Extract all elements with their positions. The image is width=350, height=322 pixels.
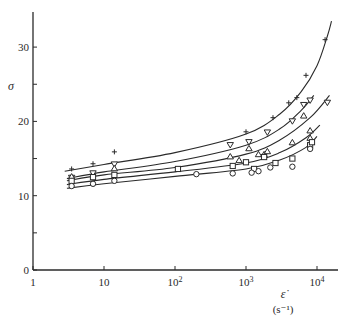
y-tick-label: 10 (18, 190, 30, 202)
marker-circle (249, 170, 254, 175)
marker-down-triangle (324, 100, 330, 105)
marker-square (243, 160, 248, 165)
marker-plus (91, 161, 96, 166)
x-axis-label: ε̇ (281, 287, 290, 301)
marker-circle (268, 165, 273, 170)
y-axis: 0102030 σ (8, 12, 37, 276)
marker-up-triangle (264, 148, 270, 153)
y-tick-label: 30 (18, 41, 30, 53)
marker-plus (270, 115, 275, 120)
curve-circle (67, 136, 317, 188)
x-axis-unit: (s⁻¹) (273, 303, 294, 316)
marker-circle (230, 171, 235, 176)
marker-up-triangle (301, 113, 307, 118)
marker-down-triangle (246, 140, 252, 145)
curve-plus (65, 21, 332, 171)
fitted-curves (65, 21, 332, 188)
curve-square (67, 125, 320, 185)
x-tick-label: 10 (99, 276, 111, 288)
marker-square (175, 166, 180, 171)
marker-up-triangle (289, 139, 295, 144)
y-ticks: 0102030 (18, 41, 37, 276)
marker-square (290, 156, 295, 161)
marker-up-triangle (246, 145, 252, 150)
marker-square (90, 175, 95, 180)
marker-circle (307, 146, 312, 151)
marker-down-triangle (227, 143, 233, 148)
curve-down-triangle (67, 95, 314, 178)
marker-circle (290, 164, 295, 169)
y-tick-label: 20 (18, 115, 30, 127)
x-tick-label: 104 (310, 275, 325, 288)
x-tick-label: 103 (239, 275, 254, 288)
x-ticks: 110102103104 (30, 266, 324, 288)
marker-square (262, 154, 267, 159)
marker-square (112, 172, 117, 177)
marker-circle (194, 171, 199, 176)
marker-square (309, 140, 314, 145)
x-axis: 110102103104 ε̇ (s⁻¹) (30, 266, 338, 316)
marker-circle (256, 168, 261, 173)
marker-circle (112, 178, 117, 183)
data-markers (68, 37, 330, 189)
marker-square (69, 178, 74, 183)
marker-circle (69, 183, 74, 188)
marker-up-triangle (307, 128, 313, 133)
y-tick-label: 0 (24, 264, 30, 276)
marker-square (273, 160, 278, 165)
x-tick-label: 102 (168, 275, 183, 288)
x-tick-label: 1 (30, 276, 36, 288)
marker-down-triangle (264, 130, 270, 135)
marker-square (230, 163, 235, 168)
marker-circle (90, 181, 95, 186)
marker-plus (304, 73, 309, 78)
stress-strain-rate-chart: 0102030 σ 110102103104 ε̇ (s⁻¹) (0, 0, 350, 322)
marker-up-triangle (227, 154, 233, 159)
marker-plus (112, 149, 117, 154)
marker-up-triangle (255, 151, 261, 156)
marker-up-triangle (236, 157, 242, 162)
marker-up-triangle (111, 165, 117, 170)
y-axis-label: σ (8, 79, 15, 93)
